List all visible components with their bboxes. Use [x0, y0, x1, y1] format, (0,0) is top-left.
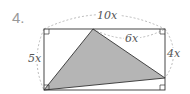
right-angle-top-left	[44, 29, 49, 34]
right-angle-top-right	[160, 29, 165, 34]
label-top-segment: 6x	[125, 32, 139, 45]
label-top-width: 10x	[97, 9, 118, 22]
geometry-figure: 4. 10x 6x 5x 4x	[0, 0, 190, 94]
label-right-segment: 4x	[166, 47, 181, 60]
label-left-height: 5x	[28, 52, 42, 65]
problem-number: 4.	[12, 9, 25, 26]
shaded-triangle	[44, 29, 165, 90]
right-angle-bottom-right	[160, 85, 165, 90]
